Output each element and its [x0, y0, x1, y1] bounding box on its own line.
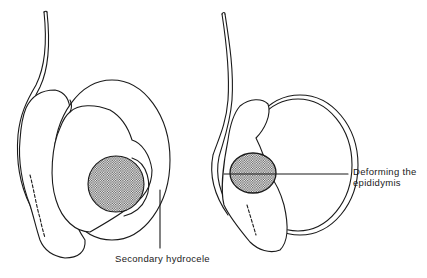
label-deforming-epididymis: Deforming the epididymis — [353, 166, 417, 188]
left-panel — [18, 11, 171, 258]
diagram-figure — [0, 0, 427, 278]
label-line-1: Deforming the — [353, 166, 417, 177]
right-panel — [212, 13, 358, 252]
label-line-2: epididymis — [353, 177, 417, 188]
tumour-left — [88, 156, 144, 212]
label-secondary-hydrocele: Secondary hydrocele — [115, 253, 210, 264]
tumour-right — [230, 153, 276, 193]
